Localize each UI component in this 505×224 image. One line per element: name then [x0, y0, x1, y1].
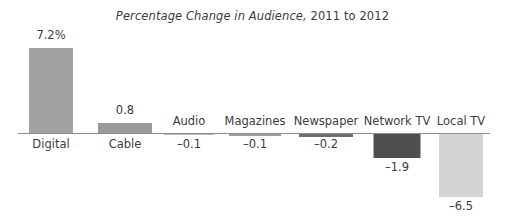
category-label-cable: Cable: [109, 137, 142, 151]
value-label-magazines: –0.1: [243, 137, 267, 151]
bar-group-local-tv: Local TV –6.5: [425, 0, 497, 224]
value-label-local-tv: –6.5: [449, 199, 473, 213]
category-label-network-tv: Network TV: [364, 114, 431, 128]
bar-audio: [164, 134, 214, 135]
chart-figure: Percentage Change in Audience, 2011 to 2…: [0, 0, 505, 224]
bar-digital: [29, 48, 73, 133]
value-label-network-tv: –1.9: [385, 160, 409, 174]
bar-group-cable: 0.8 Cable: [88, 0, 162, 224]
category-label-digital: Digital: [32, 137, 69, 151]
category-label-local-tv: Local TV: [437, 114, 485, 128]
bar-local-tv: [439, 134, 483, 197]
bar-group-network-tv: Network TV –1.9: [360, 0, 434, 224]
category-label-magazines: Magazines: [225, 114, 286, 128]
value-label-newspaper: –0.2: [314, 137, 338, 151]
category-label-audio: Audio: [173, 114, 206, 128]
category-label-newspaper: Newspaper: [294, 114, 359, 128]
bar-cable: [98, 123, 152, 133]
bar-group-magazines: Magazines –0.1: [219, 0, 291, 224]
bar-group-digital: 7.2% Digital: [14, 0, 88, 224]
bar-group-audio: Audio –0.1: [156, 0, 222, 224]
bar-network-tv: [374, 134, 421, 158]
value-label-cable: 0.8: [116, 103, 134, 117]
plot-area: 7.2% Digital 0.8 Cable Audio –0.1 Magazi…: [0, 0, 505, 224]
value-label-digital: 7.2%: [36, 28, 65, 42]
bar-group-newspaper: Newspaper –0.2: [289, 0, 363, 224]
bar-magazines: [229, 134, 281, 136]
value-label-audio: –0.1: [177, 137, 201, 151]
